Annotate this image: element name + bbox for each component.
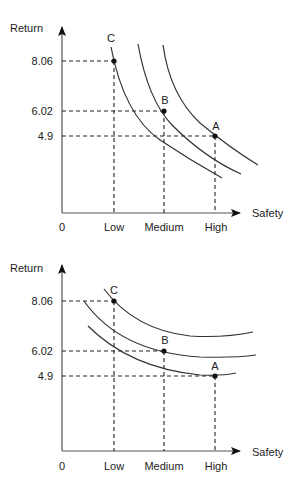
origin-label: 0 <box>59 460 65 472</box>
origin-label: 0 <box>59 221 65 233</box>
curve-b <box>84 301 256 357</box>
curve-b <box>138 44 241 174</box>
bottom-chart: Return Safety 0 Low Medium High 8.06 6.0… <box>10 262 284 472</box>
curve-a <box>163 45 258 165</box>
y-tick-4-9: 4.9 <box>38 130 53 142</box>
point-label-a: A <box>212 120 220 132</box>
x-tick-high: High <box>205 460 228 472</box>
x-tick-low: Low <box>104 460 124 472</box>
point-c <box>111 58 116 63</box>
point-c <box>111 298 116 303</box>
y-tick-8-06: 8.06 <box>32 295 53 307</box>
x-axis-label: Safety <box>252 207 284 219</box>
x-tick-high: High <box>205 221 228 233</box>
point-label-c: C <box>107 32 115 44</box>
top-chart: Return Safety 0 Low Medium High 8.06 6.0… <box>10 22 284 233</box>
y-tick-8-06: 8.06 <box>32 55 53 67</box>
point-label-b: B <box>161 94 168 106</box>
x-axis-label: Safety <box>252 446 284 458</box>
figure: Return Safety 0 Low Medium High 8.06 6.0… <box>0 0 308 499</box>
guide-lines <box>62 61 215 213</box>
y-axis-label: Return <box>10 262 43 274</box>
point-label-c: C <box>110 284 118 296</box>
point-a <box>212 133 217 138</box>
x-tick-medium: Medium <box>144 460 183 472</box>
x-tick-low: Low <box>104 221 124 233</box>
y-axis-label: Return <box>10 22 43 34</box>
point-b <box>161 348 166 353</box>
point-a <box>212 373 217 378</box>
y-tick-6-02: 6.02 <box>32 105 53 117</box>
point-b <box>161 108 166 113</box>
x-tick-medium: Medium <box>144 221 183 233</box>
point-label-a: A <box>211 360 219 372</box>
point-label-b: B <box>161 334 168 346</box>
guide-lines <box>62 301 215 451</box>
y-tick-4-9: 4.9 <box>38 370 53 382</box>
indifference-curves <box>84 289 256 375</box>
curve-c <box>111 47 222 178</box>
indifference-curves <box>111 44 258 178</box>
curve-c <box>104 289 253 337</box>
y-tick-6-02: 6.02 <box>32 345 53 357</box>
